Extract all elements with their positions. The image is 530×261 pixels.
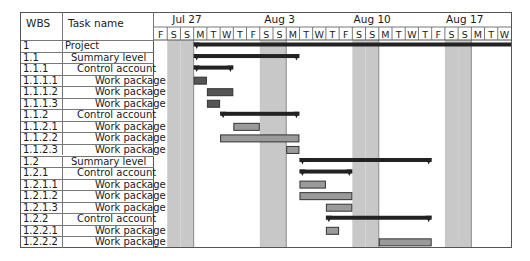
wbs-cell: 1 bbox=[21, 41, 63, 52]
day-label: T bbox=[487, 29, 494, 40]
day-label: W bbox=[315, 29, 325, 40]
weekend-shade bbox=[167, 40, 180, 247]
wbs-cell: 1.2.1 bbox=[21, 168, 63, 179]
day-label: S bbox=[356, 29, 362, 40]
day-label: W bbox=[407, 29, 417, 40]
task-bar bbox=[287, 146, 299, 153]
day-label: F bbox=[343, 29, 348, 40]
wbs-cell: 1.1.1.3 bbox=[21, 99, 63, 110]
wbs-cell: 1.1.1.1 bbox=[21, 76, 63, 87]
wbs-cell: 1.1.2 bbox=[21, 110, 63, 121]
table-row: 1.2.2.2Work package bbox=[21, 236, 154, 248]
day-label: S bbox=[171, 29, 177, 40]
day-label: T bbox=[236, 29, 243, 40]
day-label: S bbox=[263, 29, 269, 40]
wbs-cell: 1.1.2.3 bbox=[21, 145, 63, 156]
header-task-name: Task name bbox=[63, 13, 154, 40]
task-bar bbox=[326, 227, 338, 234]
summary-bar bbox=[220, 112, 299, 116]
task-bar bbox=[300, 181, 325, 188]
day-label: T bbox=[395, 29, 402, 40]
wbs-cell: 1.1.1 bbox=[21, 64, 63, 75]
table-row: 1.2.1.3Work package bbox=[21, 202, 154, 214]
gantt-chart: WBS Task name 1Project1.1Summary level1.… bbox=[20, 12, 512, 248]
timeline: Jul 27Aug 3Aug 10Aug 17FSSMTWTFSSMTWTFSS… bbox=[154, 13, 511, 247]
day-label: M bbox=[289, 29, 297, 40]
task-name-cell: Work package bbox=[63, 180, 154, 191]
summary-bar bbox=[194, 66, 234, 70]
task-name-cell: Project bbox=[63, 41, 154, 52]
wbs-cell: 1.2.2.2 bbox=[21, 237, 63, 248]
task-bar bbox=[194, 77, 206, 84]
task-name-cell: Work package bbox=[63, 122, 154, 133]
task-name-cell: Work package bbox=[63, 191, 154, 202]
day-label: S bbox=[277, 29, 283, 40]
task-name-cell: Work package bbox=[63, 203, 154, 214]
table-row: 1.1.1Control account bbox=[21, 63, 154, 75]
day-label: S bbox=[184, 29, 190, 40]
wbs-cell: 1.1.2.1 bbox=[21, 122, 63, 133]
wbs-cell: 1.2 bbox=[21, 157, 63, 168]
wbs-cell: 1.2.1.2 bbox=[21, 191, 63, 202]
table-row: 1.1.2.3Work package bbox=[21, 144, 154, 156]
header-wbs: WBS bbox=[21, 13, 63, 40]
table-row: 1.1.1.1Work package bbox=[21, 75, 154, 87]
table-row: 1Project bbox=[21, 40, 154, 52]
task-name-cell: Control account bbox=[63, 168, 154, 179]
day-label: T bbox=[302, 29, 309, 40]
day-label: M bbox=[474, 29, 482, 40]
task-name-cell: Control account bbox=[63, 214, 154, 225]
wbs-cell: 1.1.2.2 bbox=[21, 133, 63, 144]
day-label: W bbox=[222, 29, 232, 40]
task-name-cell: Summary level bbox=[63, 53, 154, 64]
task-name-cell: Work package bbox=[63, 87, 154, 98]
task-name-cell: Work package bbox=[63, 76, 154, 87]
summary-bar bbox=[194, 43, 511, 47]
day-label: M bbox=[381, 29, 389, 40]
wbs-cell: 1.2.1.3 bbox=[21, 203, 63, 214]
timeline-svg: Jul 27Aug 3Aug 10Aug 17FSSMTWTFSSMTWTFSS… bbox=[154, 13, 511, 247]
day-label: F bbox=[250, 29, 255, 40]
day-label: T bbox=[329, 29, 336, 40]
summary-bar bbox=[326, 216, 432, 220]
task-name-cell: Work package bbox=[63, 145, 154, 156]
task-name-cell: Work package bbox=[63, 226, 154, 237]
weekend-shade bbox=[458, 40, 471, 247]
wbs-cell: 1.2.2.1 bbox=[21, 226, 63, 237]
day-label: F bbox=[158, 29, 163, 40]
task-name-cell: Summary level bbox=[63, 157, 154, 168]
weekend-shade bbox=[273, 40, 286, 247]
task-bar bbox=[234, 123, 259, 130]
table-row: 1.2.1.2Work package bbox=[21, 190, 154, 202]
task-bar bbox=[300, 193, 352, 200]
table-row: 1.2.1.1Work package bbox=[21, 179, 154, 191]
task-bar bbox=[207, 89, 232, 96]
wbs-cell: 1.2.1.1 bbox=[21, 180, 63, 191]
table-row: 1.1.2.1Work package bbox=[21, 121, 154, 133]
task-bar bbox=[207, 100, 219, 107]
task-name-cell: Work package bbox=[63, 237, 154, 248]
wbs-cell: 1.2.2 bbox=[21, 214, 63, 225]
weekend-shade bbox=[260, 40, 273, 247]
day-label: M bbox=[196, 29, 204, 40]
wbs-cell: 1.1.1.2 bbox=[21, 87, 63, 98]
day-label: S bbox=[448, 29, 454, 40]
table-row: 1.1Summary level bbox=[21, 52, 154, 64]
summary-bar bbox=[299, 170, 352, 174]
task-bar bbox=[326, 204, 351, 211]
week-label: Aug 3 bbox=[264, 13, 295, 25]
table-row: 1.2Summary level bbox=[21, 156, 154, 168]
task-bar bbox=[379, 239, 431, 246]
table-row: 1.2.1Control account bbox=[21, 167, 154, 179]
task-name-cell: Work package bbox=[63, 99, 154, 110]
table-row: 1.1.1.2Work package bbox=[21, 86, 154, 98]
day-label: T bbox=[421, 29, 428, 40]
weekend-shade bbox=[445, 40, 458, 247]
task-name-cell: Control account bbox=[63, 110, 154, 121]
table-row: 1.1.1.3Work package bbox=[21, 98, 154, 110]
day-label: T bbox=[210, 29, 217, 40]
day-label: S bbox=[462, 29, 468, 40]
task-bar bbox=[221, 135, 299, 142]
summary-bar bbox=[299, 158, 431, 162]
table-row: 1.2.2.1Work package bbox=[21, 225, 154, 237]
